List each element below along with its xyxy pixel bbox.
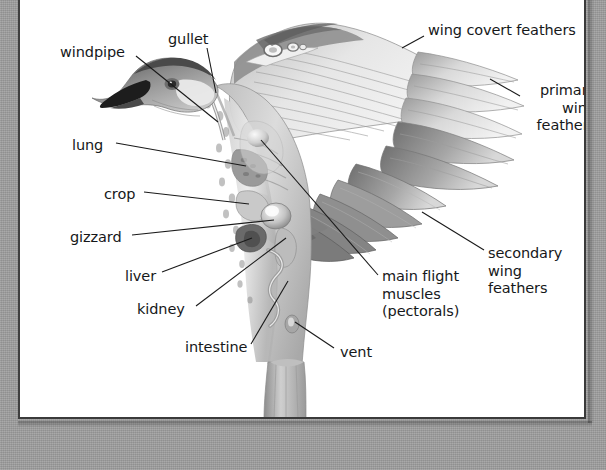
label-gullet: gullet — [168, 31, 208, 49]
label-windpipe: windpipe — [60, 44, 125, 62]
label-vent: vent — [340, 344, 372, 362]
label-gizzard: gizzard — [70, 229, 122, 247]
illustration-plate: windpipegulletwing covert feathersprimar… — [18, 0, 586, 419]
tail — [264, 362, 306, 419]
bird-anatomy-illustration — [20, 0, 586, 419]
plate-shadow-right — [588, 0, 594, 423]
shoulder-knob — [247, 129, 269, 147]
label-wing-covert-feathers: wing covert feathers — [428, 22, 576, 40]
gizzard-highlight — [265, 206, 279, 217]
label-kidney: kidney — [137, 301, 185, 319]
vent-highlight — [288, 317, 294, 326]
label-primary-wing-feathers: primary wing feathers — [537, 82, 586, 135]
leader-secondary — [422, 212, 484, 250]
label-liver: liver — [125, 268, 156, 286]
tail-group — [264, 359, 306, 419]
leader-covert — [402, 36, 424, 48]
label-intestine: intestine — [185, 339, 247, 357]
label-crop: crop — [104, 186, 135, 204]
label-lung: lung — [72, 137, 103, 155]
leader-lung — [116, 143, 246, 166]
label-secondary-wing-feathers: secondary wing feathers — [488, 245, 584, 298]
label-main-flight-muscles: main flight muscles (pectorals) — [382, 268, 459, 321]
eye — [168, 81, 176, 88]
plate-shadow-bottom — [18, 421, 592, 427]
leader-liver — [162, 238, 252, 272]
figure-page: windpipegulletwing covert feathersprimar… — [0, 0, 606, 470]
